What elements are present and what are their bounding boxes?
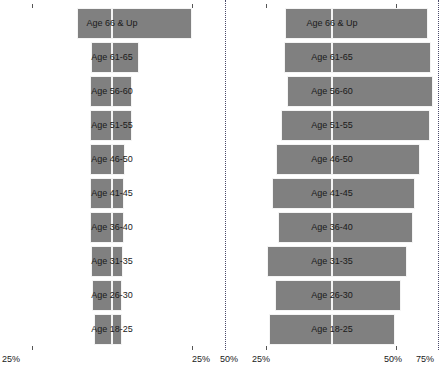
bar-left xyxy=(90,178,112,209)
chart-row: Age 46-50 xyxy=(224,144,440,175)
bar-right xyxy=(332,110,430,141)
chart-row: Age 46-50 xyxy=(0,144,224,175)
tick-mark-top-right xyxy=(192,4,193,8)
bar-right xyxy=(332,178,415,209)
bar-left xyxy=(278,212,332,243)
chart-row: Age 18-25 xyxy=(224,314,440,345)
bar-left xyxy=(90,110,112,141)
chart-row: Age 36-40 xyxy=(0,212,224,243)
axis-tick-label-right-25: 25% xyxy=(192,355,210,364)
chart-row: Age 66 & Up xyxy=(224,8,440,39)
tick-mark-top-right-r xyxy=(396,4,397,8)
bar-left xyxy=(91,246,112,277)
chart-right-panel: Age 66 & UpAge 61-65Age 56-60Age 51-55Ag… xyxy=(224,0,440,383)
bar-right xyxy=(112,246,123,277)
chart-row: Age 61-65 xyxy=(0,42,224,73)
axis-tick-label-left-25: 25% xyxy=(2,355,20,364)
bar-right xyxy=(332,42,431,73)
axis-tick-label-left-50: 50% xyxy=(220,355,238,364)
chart-row: Age 18-25 xyxy=(0,314,224,345)
bar-left xyxy=(92,280,112,311)
bar-left xyxy=(281,110,332,141)
chart-row: Age 36-40 xyxy=(224,212,440,243)
bar-left xyxy=(276,144,332,175)
chart-row: Age 61-65 xyxy=(224,42,440,73)
bar-left xyxy=(94,314,112,345)
bar-right xyxy=(112,42,139,73)
bar-left xyxy=(77,8,112,39)
bar-right xyxy=(332,280,401,311)
bar-right xyxy=(332,144,420,175)
bar-right xyxy=(332,246,407,277)
bar-left xyxy=(284,42,332,73)
bar-right xyxy=(332,76,433,107)
plot-area-right: Age 66 & UpAge 61-65Age 56-60Age 51-55Ag… xyxy=(224,0,440,350)
bar-right xyxy=(112,110,132,141)
bar-left xyxy=(269,314,332,345)
axis-tick-label-right-50: 50% xyxy=(384,355,402,364)
bar-left xyxy=(90,144,112,175)
bar-left xyxy=(287,76,332,107)
chart-row: Age 41-45 xyxy=(224,178,440,209)
bar-right xyxy=(112,76,132,107)
tick-mark-bottom-right xyxy=(192,346,193,350)
bar-right xyxy=(332,8,428,39)
tick-mark-bottom-left xyxy=(32,346,33,350)
chart-canvas: Age 66 & UpAge 61-65Age 56-60Age 51-55Ag… xyxy=(0,0,440,383)
chart-row: Age 51-55 xyxy=(224,110,440,141)
tick-mark-bottom-left-r xyxy=(266,346,267,350)
tick-mark-top-left xyxy=(32,4,33,8)
bar-left xyxy=(285,8,332,39)
bar-right xyxy=(112,144,125,175)
bar-left xyxy=(275,280,332,311)
chart-row: Age 26-30 xyxy=(224,280,440,311)
chart-row: Age 31-35 xyxy=(0,246,224,277)
bar-right xyxy=(112,8,192,39)
bar-right xyxy=(112,280,122,311)
tick-mark-top-left-r xyxy=(266,4,267,8)
chart-row: Age 51-55 xyxy=(0,110,224,141)
bar-right xyxy=(112,314,122,345)
chart-row: Age 56-60 xyxy=(224,76,440,107)
axis-tick-label-left-25-r: 25% xyxy=(252,355,270,364)
bar-right xyxy=(112,212,124,243)
chart-row: Age 31-35 xyxy=(224,246,440,277)
bar-left xyxy=(90,76,112,107)
bar-left xyxy=(90,212,112,243)
tick-mark-bottom-right-r xyxy=(396,346,397,350)
chart-left-panel: Age 66 & UpAge 61-65Age 56-60Age 51-55Ag… xyxy=(0,0,224,383)
bar-left xyxy=(267,246,332,277)
bar-left xyxy=(272,178,332,209)
chart-row: Age 41-45 xyxy=(0,178,224,209)
bar-right xyxy=(332,314,395,345)
bar-right xyxy=(112,178,124,209)
chart-row: Age 56-60 xyxy=(0,76,224,107)
chart-row: Age 66 & Up xyxy=(0,8,224,39)
bar-right xyxy=(332,212,413,243)
plot-area-left: Age 66 & UpAge 61-65Age 56-60Age 51-55Ag… xyxy=(0,0,224,350)
chart-row: Age 26-30 xyxy=(0,280,224,311)
axis-tick-label-right-75: 75% xyxy=(416,355,434,364)
bar-left xyxy=(91,42,112,73)
